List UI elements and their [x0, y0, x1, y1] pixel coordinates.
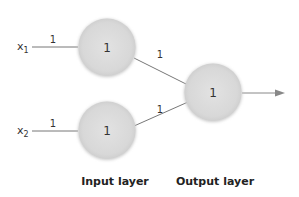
output-node-value: 1: [209, 86, 217, 100]
weight-x1: 1: [50, 34, 56, 45]
weight-node1-output: 1: [157, 49, 163, 60]
edge-node1-output: [134, 58, 188, 85]
input-node-1-value: 1: [103, 41, 111, 55]
weight-node2-output: 1: [157, 104, 163, 115]
input-label-x2: x2: [17, 124, 29, 139]
output-layer-label: Output layer: [176, 175, 255, 188]
input-label-x1: x1: [17, 40, 29, 55]
weight-x2: 1: [50, 118, 56, 129]
input-node-2-value: 1: [103, 124, 111, 138]
neural-network-diagram: 1 1 1 x1 x2 1 1 1 1 Input layer Output l…: [0, 0, 299, 197]
input-layer-label: Input layer: [81, 175, 149, 188]
arrowhead-icon: [275, 90, 285, 97]
